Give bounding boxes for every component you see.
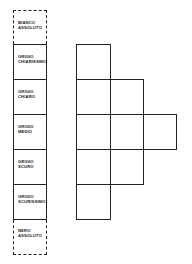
grid-cell-r3c1 <box>76 114 111 150</box>
scale-box-grigio-chiarissimo: GRIGIO CHIARISSIMO <box>13 44 47 80</box>
scale-label-line2: ASSOLUTO <box>18 233 42 238</box>
scale-label-line2: ASSOLUTO <box>18 25 42 30</box>
grid-cell-r2c1 <box>76 79 111 115</box>
scale-label-line2: SCURISSIMO <box>18 199 46 204</box>
grid-cell-r4c2 <box>110 149 144 185</box>
scale-box-grigio-scuro: GRIGIO SCURO <box>13 149 47 185</box>
grid-cell-r3c3 <box>143 114 177 150</box>
scale-box-grigio-scurissimo: GRIGIO SCURISSIMO <box>13 184 47 220</box>
grid-cell-r3c2 <box>110 114 144 150</box>
scale-label-line2: SCURO <box>18 164 34 169</box>
grid-cell-r5c1 <box>76 184 111 220</box>
grid-cell-r1c1 <box>76 44 111 80</box>
scale-label-line2: CHIARO <box>18 94 35 99</box>
scale-label-line2: CHIARISSIMO <box>18 59 47 64</box>
scale-box-bianco-assoluto: BIANCO ASSOLUTO <box>13 10 47 44</box>
grid-cell-r2c2 <box>110 79 144 115</box>
scale-box-nero-assoluto: NERO ASSOLUTO <box>13 220 47 255</box>
scale-box-grigio-chiaro: GRIGIO CHIARO <box>13 79 47 115</box>
scale-box-grigio-medio: GRIGIO MEDIO <box>13 114 47 150</box>
scale-label-line2: MEDIO <box>18 129 34 134</box>
grid-cell-r4c1 <box>76 149 111 185</box>
